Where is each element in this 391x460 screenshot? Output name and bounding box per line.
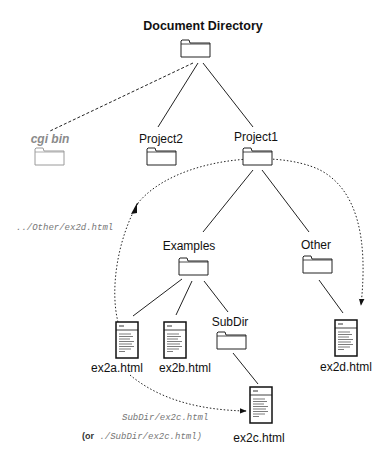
- folder-examples: [179, 258, 208, 275]
- edge-root-cgibin: [50, 63, 193, 131]
- diagram-title: Document Directory: [143, 19, 262, 33]
- folder-subdir: [217, 332, 246, 349]
- label-project2: Project2: [139, 132, 183, 146]
- doc-ex2c: [250, 387, 272, 423]
- arrowhead-ex2d-return: [131, 203, 137, 214]
- folder-root: [181, 40, 210, 57]
- folder-other: [303, 256, 332, 273]
- label-ex2b: ex2b.html: [159, 361, 211, 375]
- edge-subdir-ex2c: [233, 353, 258, 384]
- label-subdir: SubDir: [212, 315, 249, 329]
- alt-path: ./SubDir/ex2c.html): [99, 432, 202, 442]
- link-arc-ex2c: [130, 375, 246, 411]
- edge-examples-ex2b: [176, 281, 192, 315]
- doc-ex2d: [335, 320, 357, 356]
- label-ex2d: ex2d.html: [320, 360, 372, 374]
- edge-project1-other: [262, 170, 309, 232]
- edge-root-project1: [203, 63, 253, 127]
- label-project1: Project1: [234, 130, 278, 144]
- alt-path-to-ex2c: (or ./SubDir/ex2c.html): [82, 431, 202, 442]
- doc-ex2b: [164, 322, 186, 358]
- doc-ex2a: [116, 322, 138, 358]
- label-cgi-bin: cgi bin: [31, 132, 70, 146]
- label-examples: Examples: [163, 239, 216, 253]
- label-other: Other: [301, 238, 331, 252]
- directory-diagram: Document Directory cgi bin Project2 Proj…: [0, 0, 391, 460]
- edge-examples-ex2a: [133, 279, 182, 316]
- folder-project1: [243, 148, 272, 165]
- folder-cgi-bin: [35, 148, 64, 165]
- edge-other-ex2d: [319, 280, 343, 313]
- folder-project2: [147, 148, 176, 165]
- or-label: (or: [82, 431, 94, 441]
- edge-root-project2: [158, 63, 198, 127]
- edge-examples-subdir: [204, 281, 228, 312]
- label-ex2c: ex2c.html: [233, 431, 284, 445]
- path-to-ex2c: SubDir/ex2c.html: [122, 413, 208, 423]
- path-to-ex2d: ../Other/ex2d.html: [16, 223, 113, 233]
- label-ex2a: ex2a.html: [91, 361, 143, 375]
- edge-project1-examples: [203, 170, 253, 232]
